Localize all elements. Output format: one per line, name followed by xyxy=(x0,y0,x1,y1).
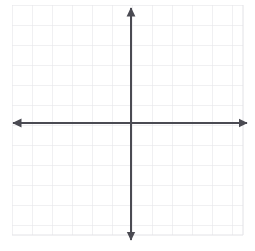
grid-lines xyxy=(12,5,243,235)
graph-canvas xyxy=(0,0,255,251)
coordinate-plane-figure xyxy=(0,0,255,251)
grid-fill xyxy=(12,5,243,235)
